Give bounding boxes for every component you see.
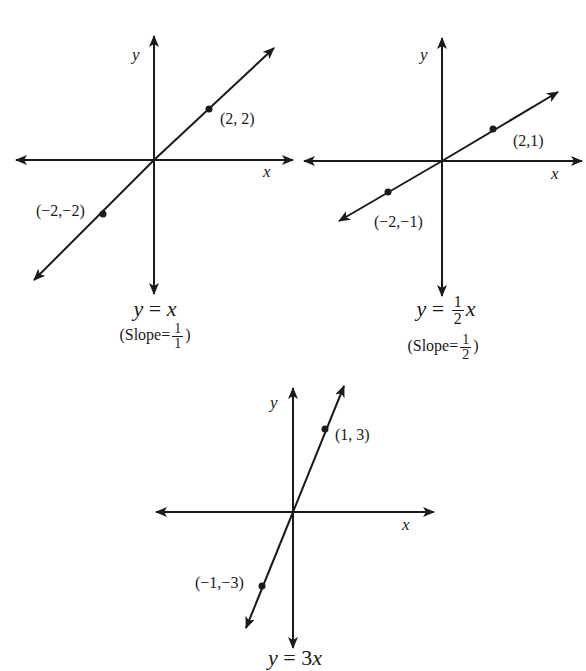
line-half-x-upper — [442, 92, 558, 161]
equation-op: = — [283, 645, 295, 670]
equation-lhs: y — [268, 645, 278, 670]
point-dot-icon — [490, 126, 497, 133]
equation-graph-1: y = x — [100, 296, 210, 322]
point-dot-icon — [385, 189, 392, 196]
slope-fraction: 11 — [172, 322, 183, 351]
y-axis-label: y — [418, 45, 428, 64]
slope-suffix: ) — [185, 326, 190, 343]
point-label: (2,1) — [513, 132, 544, 150]
line-3x-lower — [246, 512, 293, 628]
point-label: (−2,−1) — [374, 213, 423, 231]
point-label: (1, 3) — [335, 426, 370, 444]
fraction-denominator: 2 — [460, 348, 471, 362]
equation-rhs: x — [466, 296, 476, 321]
slope-suffix: ) — [473, 337, 478, 354]
slope-eq: = — [449, 337, 458, 354]
fraction-numerator: 1 — [452, 294, 464, 311]
graph-2: y x (2,1) (−2,−1) — [304, 38, 582, 296]
slope-eq: = — [161, 326, 170, 343]
slope-prefix: (Slope — [407, 337, 449, 354]
x-axis-label: x — [401, 515, 410, 534]
fraction-denominator: 2 — [452, 311, 464, 327]
equation-op: = — [432, 296, 444, 321]
point-dot-icon — [259, 583, 266, 590]
fraction-denominator: 1 — [172, 337, 183, 351]
slope-caption-graph-1: (Slope=11) — [90, 322, 220, 351]
equation-fraction: 12 — [452, 294, 464, 327]
point-dot-icon — [322, 426, 329, 433]
equation-rhs: x — [167, 296, 177, 321]
graph-1: y x (2, 2) (−2,−2) — [16, 36, 293, 294]
graph-3: y x (1, 3) (−1,−3) — [156, 386, 434, 648]
point-dot-icon — [100, 211, 107, 218]
equation-coefficient: 3 — [301, 645, 312, 670]
equation-graph-2: y = 12x — [386, 294, 506, 327]
equation-lhs: y — [134, 296, 144, 321]
equation-lhs: y — [417, 296, 427, 321]
line-3x-upper — [293, 386, 344, 512]
x-axis-label: x — [550, 164, 559, 183]
fraction-numerator: 1 — [172, 322, 183, 337]
equation-graph-3: y = 3x — [240, 645, 350, 671]
point-dot-icon — [206, 106, 213, 113]
line-y-equals-x-lower — [34, 160, 154, 280]
y-axis-label: y — [130, 45, 140, 64]
slope-fraction: 12 — [460, 333, 471, 362]
y-axis-label: y — [268, 393, 278, 412]
point-label: (2, 2) — [220, 110, 255, 128]
point-label: (−1,−3) — [195, 574, 244, 592]
fraction-numerator: 1 — [460, 333, 471, 348]
equation-op: = — [149, 296, 161, 321]
slope-prefix: (Slope — [119, 326, 161, 343]
equation-rhs: x — [312, 645, 322, 670]
line-y-equals-x-upper — [154, 48, 274, 160]
slope-caption-graph-2: (Slope=12) — [378, 333, 508, 362]
point-label: (−2,−2) — [36, 202, 85, 220]
x-axis-label: x — [262, 162, 271, 181]
